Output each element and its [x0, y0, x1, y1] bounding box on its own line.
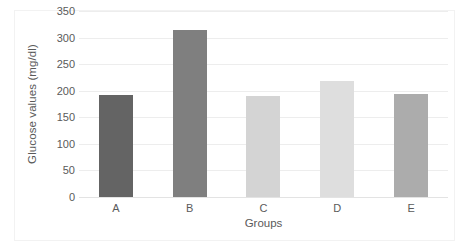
bar-slot — [300, 11, 374, 197]
x-axis-tick-label: E — [374, 199, 448, 217]
x-axis-tick-label: C — [227, 199, 301, 217]
y-axis-tick-label: 50 — [63, 165, 75, 176]
y-axis-tick-label: 100 — [57, 138, 75, 149]
bar-slot — [79, 11, 153, 197]
y-axis-title-label: Glucose values (mg/dl) — [26, 44, 38, 164]
y-axis-tick-label: 250 — [57, 59, 75, 70]
y-axis-tick-label: 0 — [69, 192, 75, 203]
bar[interactable] — [246, 96, 280, 198]
axis-baseline — [79, 197, 448, 198]
x-axis-tick-labels: ABCDE — [79, 199, 448, 217]
bar[interactable] — [320, 81, 354, 197]
bar-series — [79, 11, 448, 197]
chart-container: Glucose values (mg/dl) 05010015020025030… — [14, 10, 455, 241]
x-axis-tick-label: D — [300, 199, 374, 217]
x-axis-tick-label: A — [79, 199, 153, 217]
bar[interactable] — [394, 94, 428, 197]
bar-slot — [153, 11, 227, 197]
bar[interactable] — [173, 30, 207, 197]
y-axis-tick-label: 350 — [57, 6, 75, 17]
y-axis-tick-label: 200 — [57, 85, 75, 96]
y-axis-tick-label: 300 — [57, 32, 75, 43]
y-axis-tick-label: 150 — [57, 112, 75, 123]
y-axis-title: Glucose values (mg/dl) — [23, 11, 41, 197]
y-axis-tick-labels: 050100150200250300350 — [41, 11, 75, 197]
bar[interactable] — [99, 95, 133, 197]
bar-slot — [374, 11, 448, 197]
x-axis-tick-label: B — [153, 199, 227, 217]
bar-slot — [227, 11, 301, 197]
plot-area — [79, 11, 448, 197]
x-axis-title: Groups — [79, 217, 448, 229]
